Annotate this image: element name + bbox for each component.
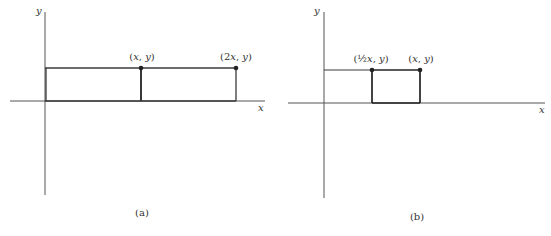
x-axis-label-b: x — [539, 104, 545, 115]
x-axis-label-a: x — [258, 102, 264, 113]
figure-canvas: y x (x, y) (2x, y) (a) y x (½x, y) — [0, 0, 551, 236]
y-axis-label-b: y — [313, 5, 320, 16]
point-label-x-y-b: (x, y) — [408, 53, 434, 64]
panel-b: y x (½x, y) (x, y) (b) — [288, 5, 545, 222]
point-label-half-x-y-b: (½x, y) — [353, 53, 388, 64]
panel-a: y x (x, y) (2x, y) (a) — [10, 5, 265, 218]
point-2x-y-a — [234, 66, 239, 71]
point-label-x-y-a: (x, y) — [129, 51, 155, 62]
caption-a: (a) — [135, 207, 149, 218]
point-x-y-a — [139, 66, 144, 71]
point-half-x-y-b — [370, 68, 375, 73]
point-label-2x-y-a: (2x, y) — [220, 51, 252, 62]
y-axis-label-a: y — [35, 5, 42, 16]
caption-b: (b) — [410, 211, 424, 222]
point-x-y-b — [418, 68, 423, 73]
